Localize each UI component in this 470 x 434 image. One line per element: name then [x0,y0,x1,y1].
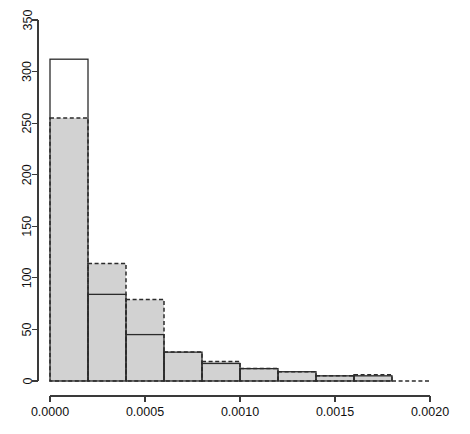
y-axis-tick-label: 0 [21,377,35,384]
histogram-figure: 0.00000.00050.00100.00150.00200501001502… [0,0,470,434]
x-axis-tick-label: 0.0015 [316,405,354,419]
histogram-plot: 0.00000.00050.00100.00150.00200501001502… [0,0,470,434]
y-axis-tick-label: 200 [21,164,35,185]
x-axis-tick-label: 0.0000 [31,405,69,419]
histogram-bar-fill [278,372,316,381]
histogram-bar-fill [316,376,354,381]
histogram-bar-fill [50,118,88,381]
histogram-bar-fill [202,361,240,381]
x-axis: 0.00000.00050.00100.00150.0020 [31,396,449,419]
y-axis-tick-label: 50 [21,322,35,336]
histogram-bar-fill [164,352,202,381]
histogram-bar-fill [126,300,164,381]
y-axis-tick-label: 350 [21,10,35,31]
x-axis-tick-label: 0.0020 [411,405,449,419]
x-axis-tick-label: 0.0010 [221,405,259,419]
x-axis-tick-label: 0.0005 [126,405,164,419]
y-axis-tick-label: 100 [21,267,35,288]
y-axis: 050100150200250300350 [21,10,39,385]
filled-bars-group [50,118,392,381]
histogram-bar-fill [88,263,126,381]
histogram-bar-fill [240,369,278,381]
y-axis-tick-label: 300 [21,61,35,82]
y-axis-tick-label: 150 [21,216,35,237]
y-axis-tick-label: 250 [21,113,35,134]
